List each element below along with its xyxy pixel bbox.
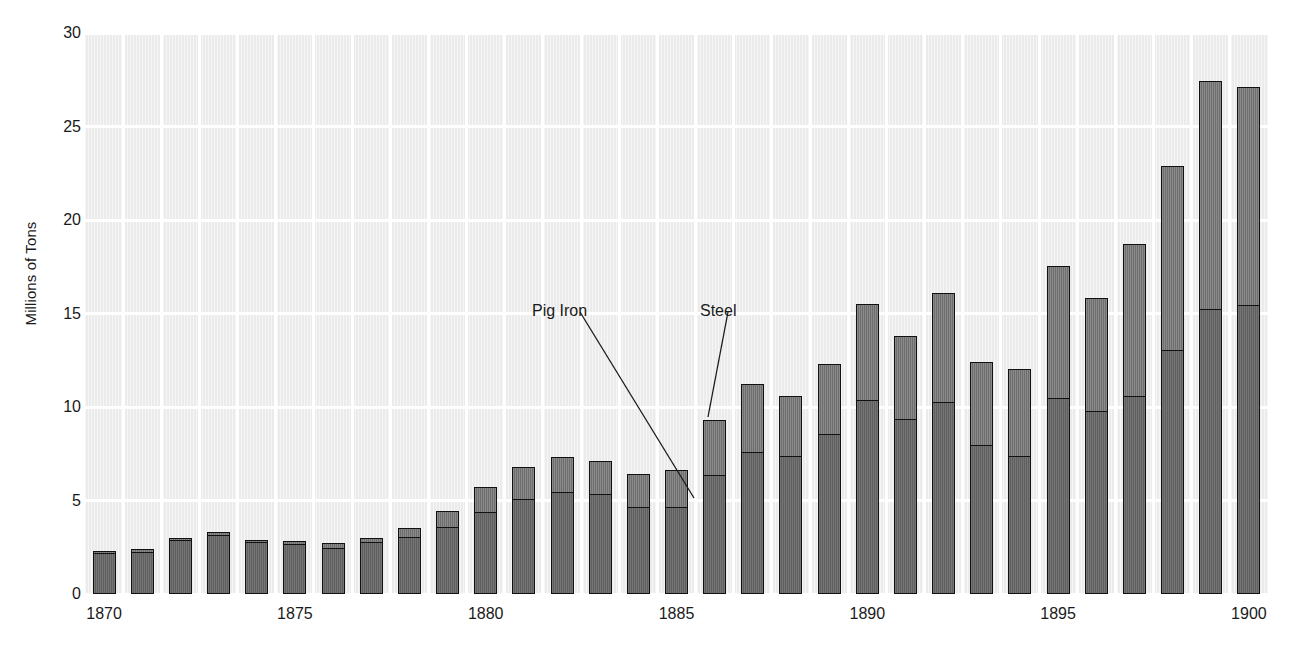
annotation-leader-line <box>708 312 728 417</box>
annotation-leader-lines <box>0 0 1293 649</box>
bar-chart: Millions of Tons 051015202530 1870187518… <box>0 0 1293 649</box>
annotation-leader-line <box>580 312 694 498</box>
annotation-label-pig-iron: Pig Iron <box>532 303 587 319</box>
annotation-label-steel: Steel <box>700 303 736 319</box>
